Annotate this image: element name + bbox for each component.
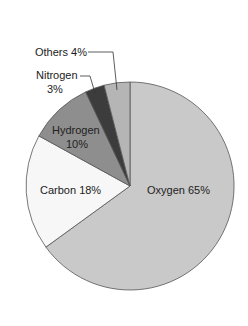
label-nitrogen-name: Nitrogen	[36, 69, 78, 81]
label-hydrogen-value: 10%	[66, 138, 88, 150]
label-nitrogen-value: 3%	[47, 83, 63, 95]
label-hydrogen-name: Hydrogen	[52, 124, 100, 136]
pie-chart: Others 4% Nitrogen 3% Hydrogen 10% Carbo…	[0, 0, 248, 326]
label-others: Others 4%	[35, 46, 87, 58]
label-oxygen: Oxygen 65%	[147, 184, 210, 196]
label-carbon: Carbon 18%	[40, 184, 101, 196]
